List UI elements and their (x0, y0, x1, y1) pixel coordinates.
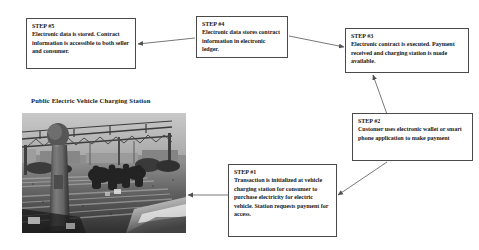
step-box-1: STEP #1 Transaction is initialized at ve… (228, 164, 337, 237)
step-1-label: STEP #1 (234, 168, 332, 176)
connector-step4-to-step5 (138, 38, 195, 44)
step-box-2: STEP #2 Customer uses electronic wallet … (352, 113, 473, 161)
step-2-text: Customer uses electronic wallet or smart… (358, 125, 468, 142)
step-box-4: STEP #4 Electronic data stores contract … (196, 16, 288, 58)
connector-step3-to-step2 (373, 75, 388, 117)
step-box-3: STEP #3 Electronic contract is executed.… (345, 28, 469, 73)
photo-caption: Public Electric Vehicle Charging Station (31, 97, 151, 104)
charging-station-photo (22, 113, 186, 233)
step-4-text: Electronic data stores contract informat… (202, 28, 283, 53)
step-box-5: STEP #5 Electronic data is stored. Contr… (26, 18, 136, 69)
connector-step4-to-step3 (289, 36, 344, 47)
flowchart-canvas: Public Electric Vehicle Charging Station (0, 0, 479, 250)
step-2-label: STEP #2 (358, 117, 468, 125)
step-1-text: Transaction is initialized at vehicle ch… (234, 176, 332, 218)
step-5-label: STEP #5 (32, 22, 131, 30)
step-3-text: Electronic contract is executed. Payment… (351, 40, 464, 65)
step-5-text: Electronic data is stored. Contract info… (32, 30, 131, 55)
step-4-label: STEP #4 (202, 20, 283, 28)
step-3-label: STEP #3 (351, 32, 464, 40)
connector-step2-to-step1 (338, 162, 387, 195)
